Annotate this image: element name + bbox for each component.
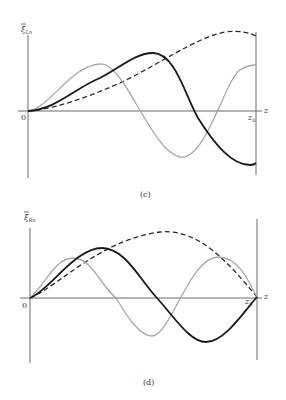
origin-label-c: 0 <box>21 113 26 122</box>
caption-c: (c) <box>140 190 151 199</box>
y-axis-label-d: ξRn <box>24 213 35 223</box>
caption-d: (d) <box>143 378 154 387</box>
panel-c: 0 zb z ξLn (c) <box>18 24 269 199</box>
z-end-label-c: zb <box>247 113 255 123</box>
x-axis-label-d: z <box>263 292 269 301</box>
curve-black-c <box>28 53 256 165</box>
panel-d: 0 zb z ξRn (d) <box>20 212 269 387</box>
y-axis-label-c: ξLn <box>21 25 32 35</box>
curve-dashed-d <box>30 232 257 298</box>
curve-black-d <box>30 248 257 342</box>
figure-canvas: 0 zb z ξLn (c) 0 zb z ξRn (d) <box>0 0 286 400</box>
x-axis-label-c: z <box>263 106 269 115</box>
origin-label-d: 0 <box>22 301 27 310</box>
